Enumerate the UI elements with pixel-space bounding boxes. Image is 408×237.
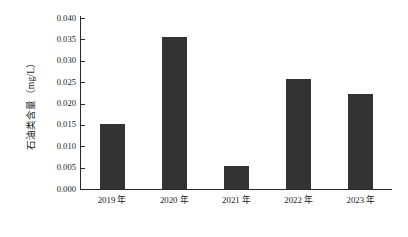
bar-chart-figure: 石油类含量（mg/L） 0.0400.0350.0300.0250.0200.0… <box>0 0 408 237</box>
bar-series <box>81 18 392 189</box>
x-axis-tick-label: 2023 年 <box>330 196 392 205</box>
bar <box>286 79 311 189</box>
y-axis-tick-label: 0.035 <box>34 35 76 44</box>
x-axis-tick-label: 2020 年 <box>143 196 205 205</box>
bar <box>348 94 373 189</box>
y-axis-tick-label: 0.040 <box>34 14 76 23</box>
x-axis-tick-label: 2022 年 <box>268 196 330 205</box>
bar <box>162 37 187 189</box>
x-axis-spine <box>80 189 392 190</box>
bar <box>100 124 125 189</box>
y-axis-tick-label: 0.025 <box>34 78 76 87</box>
y-axis-tick-label: 0.020 <box>34 99 76 108</box>
y-axis-tick-label: 0.030 <box>34 56 76 65</box>
y-axis-tick <box>81 189 85 190</box>
y-axis-tick-labels: 0.0400.0350.0300.0250.0200.0150.0100.005… <box>30 0 76 237</box>
y-axis-tick-label: 0.000 <box>34 185 76 194</box>
bar <box>224 166 249 189</box>
x-axis-tick-label: 2019 年 <box>81 196 143 205</box>
x-axis-tick-label: 2021 年 <box>205 196 267 205</box>
y-axis-tick-label: 0.005 <box>34 163 76 172</box>
y-axis-tick-label: 0.010 <box>34 142 76 151</box>
y-axis-tick-label: 0.015 <box>34 120 76 129</box>
x-axis-tick-labels: 2019 年2020 年2021 年2022 年2023 年 <box>81 196 392 216</box>
